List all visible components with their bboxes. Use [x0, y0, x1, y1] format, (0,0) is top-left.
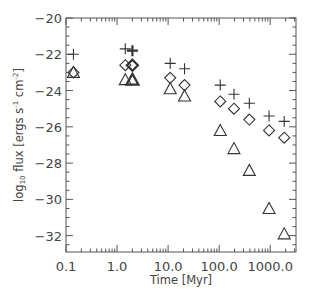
triangle-marker	[243, 164, 255, 175]
y-title-rest: flux [ergs s	[12, 108, 26, 176]
triangle-marker	[126, 74, 138, 85]
plus-marker	[279, 116, 290, 127]
x-axis-tick-labels: 0.11.010.0100.01000.0	[56, 259, 293, 274]
plus-marker	[68, 49, 79, 60]
y-tick-label: −32	[35, 229, 62, 244]
y-tick-label: −28	[35, 156, 62, 171]
plus-marker	[165, 58, 176, 69]
plus-marker	[215, 80, 226, 91]
x-tick-label: 1.0	[107, 259, 128, 274]
y-tick-label: −30	[35, 192, 62, 207]
triangle-marker	[164, 83, 176, 94]
x-tick-label: 1000.0	[247, 259, 293, 274]
plus-marker	[244, 98, 255, 109]
triangle-marker	[179, 90, 191, 101]
plus-marker	[264, 110, 275, 121]
data-markers	[67, 43, 290, 239]
plot-border	[66, 18, 296, 252]
y-tick-label: −24	[35, 84, 62, 99]
diamond-marker	[215, 96, 226, 107]
y-title-sub: 10	[19, 175, 27, 184]
plot-frame	[66, 18, 296, 252]
plus-marker	[228, 89, 239, 100]
diamond-marker	[279, 132, 290, 143]
triangle-marker	[263, 202, 275, 213]
y-title-cm-exp: -2	[12, 73, 20, 80]
diamond-marker	[244, 114, 255, 125]
y-axis-ticks	[66, 18, 296, 245]
y-tick-label: −26	[35, 120, 62, 135]
diamond-marker	[120, 60, 131, 71]
triangle-marker	[278, 228, 290, 239]
y-axis-title: log10 flux [ergs s-1 cm-2]	[12, 68, 27, 202]
x-tick-label: 10.0	[154, 259, 183, 274]
y-title-end: ]	[12, 68, 26, 73]
y-axis-tick-labels: −20−22−24−26−28−30−32	[35, 11, 62, 244]
x-axis-title: Time [Myr]	[149, 273, 212, 287]
diamond-marker	[127, 60, 138, 71]
diamond-marker	[264, 125, 275, 136]
x-axis-ticks	[66, 18, 295, 252]
y-title-mid: cm	[12, 80, 26, 101]
plus-marker	[120, 43, 131, 54]
diamond-marker	[228, 103, 239, 114]
flux-vs-time-chart: 0.11.010.0100.01000.0 −20−22−24−26−28−30…	[0, 0, 309, 303]
triangle-marker	[214, 124, 226, 135]
triangle-marker	[228, 143, 240, 154]
y-title-log: log	[12, 184, 26, 202]
plus-marker	[179, 63, 190, 74]
x-tick-label: 100.0	[201, 259, 238, 274]
y-tick-label: −22	[35, 47, 62, 62]
y-title-s-exp: -1	[12, 101, 20, 108]
x-tick-label: 0.1	[56, 259, 77, 274]
plus-marker	[127, 45, 138, 56]
y-tick-label: −20	[35, 11, 62, 26]
